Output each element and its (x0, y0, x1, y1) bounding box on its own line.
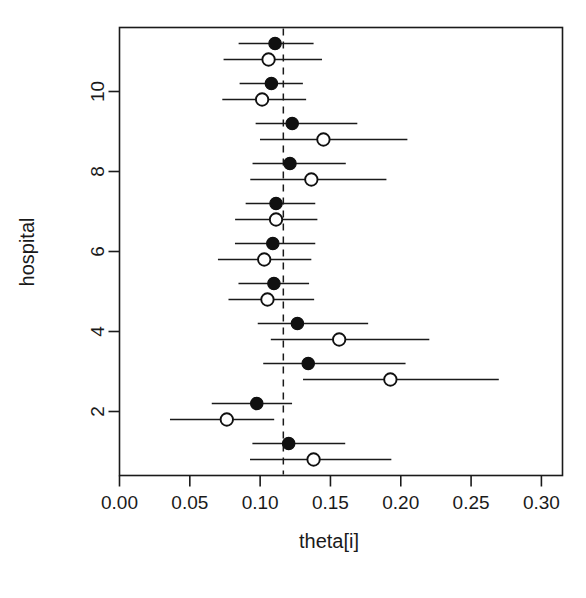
x-tick-label: 0.10 (242, 492, 279, 513)
data-point-open (384, 373, 396, 385)
data-point-filled (265, 77, 277, 89)
x-tick-label: 0.15 (312, 492, 349, 513)
caterpillar-plot-svg: 0.000.050.100.150.200.250.30 246810 thet… (0, 0, 586, 598)
y-axis-ticks (109, 92, 120, 412)
data-point-open (270, 213, 282, 225)
data-point-open (258, 253, 270, 265)
data-point-filled (302, 357, 314, 369)
data-point-open (333, 333, 345, 345)
x-axis-title: theta[i] (299, 530, 359, 552)
data-point-open (317, 133, 329, 145)
x-axis-tick-labels: 0.000.050.100.150.200.250.30 (101, 492, 560, 513)
x-tick-label: 0.30 (523, 492, 560, 513)
x-tick-label: 0.20 (382, 492, 419, 513)
x-tick-label: 0.05 (171, 492, 208, 513)
y-axis-tick-labels: 246810 (87, 81, 108, 417)
data-point-filled (251, 397, 263, 409)
data-point-filled (286, 117, 298, 129)
chart-figure: 0.000.050.100.150.200.250.30 246810 thet… (0, 0, 586, 598)
y-tick-label: 4 (87, 326, 108, 337)
data-point-open (261, 293, 273, 305)
data-point-open (262, 53, 274, 65)
data-point-filled (284, 157, 296, 169)
data-point-open (305, 173, 317, 185)
y-tick-label: 6 (87, 246, 108, 257)
data-point-filled (268, 277, 280, 289)
x-axis-ticks (120, 476, 542, 487)
data-point-filled (269, 37, 281, 49)
y-tick-label: 2 (87, 406, 108, 417)
data-points-group (170, 37, 499, 465)
x-tick-label: 0.25 (453, 492, 490, 513)
y-tick-label: 10 (87, 81, 108, 102)
x-tick-label: 0.00 (101, 492, 138, 513)
plot-panel-border (120, 28, 563, 476)
data-point-open (256, 93, 268, 105)
data-point-filled (270, 197, 282, 209)
data-point-filled (267, 237, 279, 249)
y-tick-label: 8 (87, 166, 108, 177)
data-point-filled (282, 437, 294, 449)
data-point-filled (291, 317, 303, 329)
data-point-open (307, 453, 319, 465)
data-point-open (221, 413, 233, 425)
y-axis-title: hospital (16, 218, 38, 287)
